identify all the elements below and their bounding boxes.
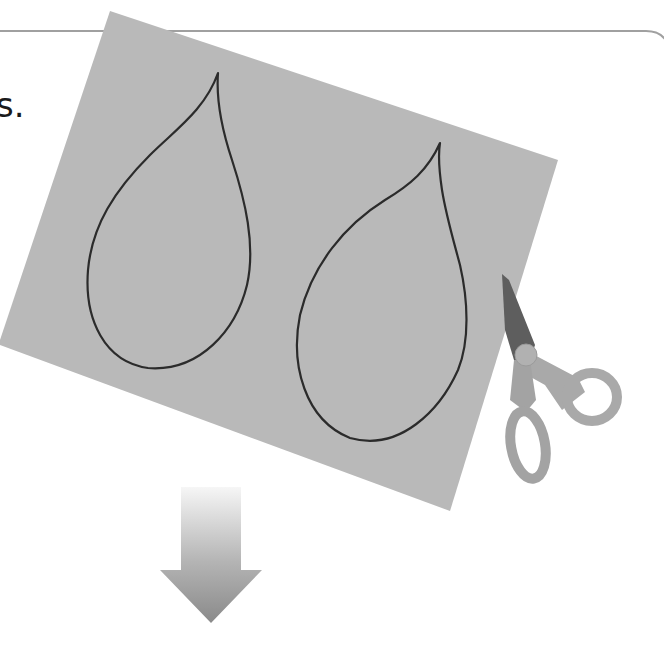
craft-illustration <box>0 0 664 651</box>
down-arrow-icon <box>160 487 262 623</box>
paper-sheet <box>0 11 558 511</box>
scissors-icon <box>502 274 617 481</box>
